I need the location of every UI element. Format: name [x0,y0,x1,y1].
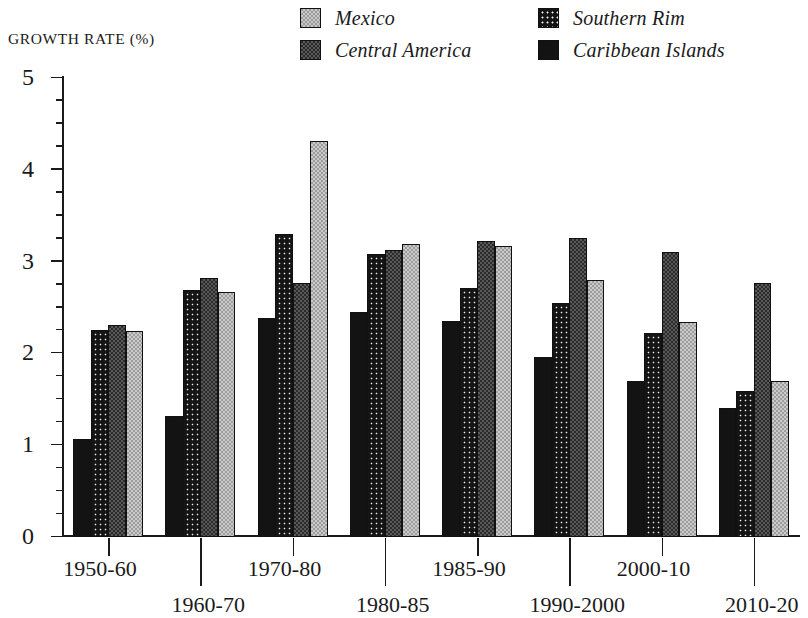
bar-mexico [402,244,420,537]
bar-group [165,78,235,537]
bar-southern-rim [460,288,478,537]
bar-central-america [293,283,311,537]
y-tick-major [51,168,62,170]
x-tick [477,538,479,556]
y-axis-title: GROWTH RATE (%) [8,30,155,48]
x-tick [662,538,664,556]
bar-mexico [495,246,513,537]
x-tick-label: 2010-20 [692,594,808,616]
y-tick-label: 0 [4,524,34,548]
bar-central-america [200,278,218,537]
y-axis-title-text: GROWTH RATE (%) [8,30,155,47]
bar-caribbean-islands [627,381,645,537]
bar-group [534,78,604,537]
x-axis-labels: 1950-601960-701970-801980-851985-901990-… [62,538,808,618]
legend-label-central-america: Central America [335,40,472,60]
legend-label-caribbean-islands: Caribbean Islands [573,40,725,60]
bar-caribbean-islands [258,318,276,537]
x-tick-label: 1970-80 [215,558,355,580]
bar-group [442,78,512,537]
y-tick-minor [56,375,62,377]
x-tick-label: 1950-60 [30,558,170,580]
bar-caribbean-islands [719,408,737,537]
y-tick-minor [56,214,62,216]
y-tick-major [51,352,62,354]
y-tick-minor [56,122,62,124]
y-tick-major [51,444,62,446]
bar-southern-rim [183,290,201,537]
x-tick [385,538,387,586]
bar-mexico [218,292,236,537]
bar-caribbean-islands [73,439,91,537]
y-tick-minor [56,398,62,400]
legend-item-southern-rim: Southern Rim [538,2,725,34]
legend-label-southern-rim: Southern Rim [573,8,685,28]
bar-group [627,78,697,537]
y-tick-label: 5 [4,65,34,89]
x-tick-label: 1990-2000 [507,594,647,616]
bar-mexico [771,381,789,537]
x-tick [200,538,202,586]
x-tick [754,538,756,586]
legend-label-mexico: Mexico [335,8,395,28]
y-tick-label: 1 [4,432,34,456]
y-tick-minor [56,191,62,193]
x-tick-label: 1960-70 [138,594,278,616]
legend-swatch-mexico-icon [300,8,321,28]
y-tick-minor [56,99,62,101]
bar-southern-rim [91,330,109,537]
y-tick-minor [56,513,62,515]
bar-southern-rim [275,234,293,537]
y-tick-minor [56,490,62,492]
y-tick-major [51,536,62,538]
bar-caribbean-islands [165,416,183,537]
y-tick-minor [56,329,62,331]
x-tick-label: 1980-85 [323,594,463,616]
x-tick [293,538,295,556]
legend-item-mexico: Mexico [300,2,472,34]
y-tick-minor [56,306,62,308]
legend-swatch-southern-rim-icon [538,8,559,28]
plot-area [62,78,800,537]
bar-caribbean-islands [350,312,368,537]
legend-column-2: Southern Rim Caribbean Islands [538,2,725,66]
bar-mexico [679,322,697,537]
y-tick-minor [56,237,62,239]
x-tick [569,538,571,586]
y-tick-label: 4 [4,157,34,181]
bar-group [73,78,143,537]
y-tick-major [51,260,62,262]
bar-mexico [310,141,328,537]
y-tick-minor [56,283,62,285]
bar-southern-rim [644,333,662,537]
bar-caribbean-islands [534,357,552,537]
bar-mexico [126,331,144,537]
bar-group [350,78,420,537]
growth-rate-bar-chart: GROWTH RATE (%) Mexico Central America S… [0,0,808,618]
y-tick-label: 3 [4,249,34,273]
bar-central-america [477,241,495,537]
bar-central-america [569,238,587,537]
bar-mexico [587,280,605,537]
x-tick [108,538,110,556]
legend-item-central-america: Central America [300,34,472,66]
bar-caribbean-islands [442,321,460,537]
bar-group [258,78,328,537]
bar-central-america [662,252,680,537]
y-tick-major [51,77,62,79]
y-tick-minor [56,421,62,423]
bar-central-america [754,283,772,537]
legend-column-1: Mexico Central America [300,2,472,66]
bar-southern-rim [736,391,754,537]
bar-southern-rim [552,303,570,537]
legend-swatch-central-america-icon [300,40,321,60]
legend-swatch-caribbean-islands-icon [538,40,559,60]
legend-item-caribbean-islands: Caribbean Islands [538,34,725,66]
bar-southern-rim [367,254,385,537]
y-tick-minor [56,145,62,147]
y-axis-line [62,76,64,537]
bar-central-america [385,250,403,537]
chart-legend: Mexico Central America Southern Rim Cari… [300,2,808,66]
x-tick-label: 2000-10 [584,558,724,580]
bar-group [719,78,789,537]
